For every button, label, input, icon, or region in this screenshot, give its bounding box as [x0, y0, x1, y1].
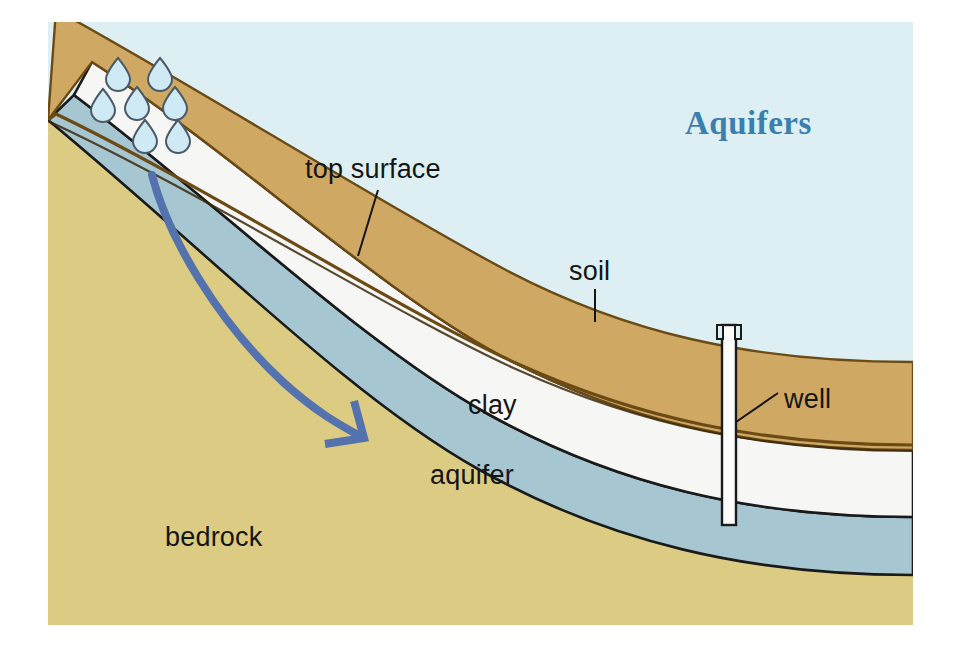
label-bedrock: bedrock	[165, 522, 262, 553]
label-well: well	[784, 384, 831, 415]
label-aquifer: aquifer	[430, 460, 514, 491]
diagram-stage: top surface soil clay aquifer bedrock we…	[0, 0, 961, 647]
label-clay: clay	[468, 390, 517, 421]
aquifer-diagram: top surface soil clay aquifer bedrock we…	[48, 22, 913, 625]
label-soil: soil	[569, 256, 610, 287]
diagram-title: Aquifers	[685, 105, 812, 142]
label-top-surface: top surface	[305, 154, 441, 185]
